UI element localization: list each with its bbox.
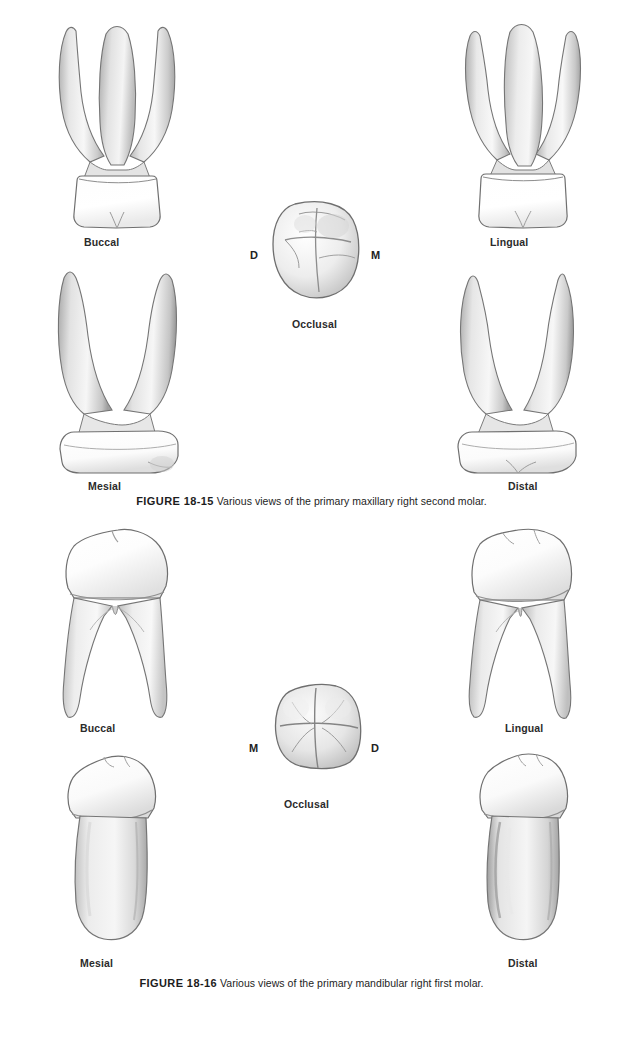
- label-distal-maxillary: Distal: [508, 480, 538, 492]
- maxillary-molar-buccal-illustration: [46, 18, 188, 230]
- maxillary-molar-distal-illustration: [448, 272, 588, 475]
- occlusal-marker-right-mandibular: D: [371, 742, 379, 754]
- figure-18-15-caption: FIGURE 18-15 Various views of the primar…: [0, 495, 623, 507]
- maxillary-molar-lingual-illustration: [452, 18, 594, 230]
- tooth-view-occlusal-mandibular: [268, 680, 368, 772]
- label-occlusal-mandibular: Occlusal: [284, 798, 329, 810]
- label-lingual-mandibular: Lingual: [505, 722, 543, 734]
- tooth-view-distal-mandibular: [466, 750, 594, 945]
- figure-18-15-number: FIGURE 18-15: [136, 495, 214, 507]
- label-lingual-maxillary: Lingual: [490, 236, 528, 248]
- tooth-view-occlusal-maxillary: [265, 196, 371, 304]
- tooth-view-distal-maxillary: [448, 272, 588, 475]
- figure-18-15-caption-text: Various views of the primary maxillary r…: [217, 495, 487, 507]
- tooth-view-mesial-mandibular: [56, 750, 184, 945]
- maxillary-molar-mesial-illustration: [52, 270, 190, 475]
- tooth-view-buccal-mandibular: [56, 520, 184, 720]
- occlusal-marker-left-mandibular: M: [249, 742, 258, 754]
- figure-18-16-caption: FIGURE 18-16 Various views of the primar…: [0, 977, 623, 989]
- mandibular-molar-buccal-illustration: [56, 520, 184, 720]
- tooth-view-mesial-maxillary: [52, 270, 190, 475]
- mandibular-molar-lingual-illustration: [460, 520, 588, 720]
- occlusal-marker-left-maxillary: D: [250, 249, 258, 261]
- mandibular-molar-distal-illustration: [466, 750, 594, 945]
- tooth-view-lingual-maxillary: [452, 18, 594, 230]
- label-buccal-mandibular: Buccal: [80, 722, 115, 734]
- tooth-view-buccal-maxillary: [46, 18, 188, 230]
- maxillary-molar-occlusal-illustration: [265, 196, 371, 304]
- label-mesial-mandibular: Mesial: [80, 957, 113, 969]
- figure-18-16-number: FIGURE 18-16: [139, 977, 217, 989]
- mandibular-molar-mesial-illustration: [56, 750, 184, 945]
- mandibular-molar-occlusal-illustration: [268, 680, 368, 772]
- figure-18-16-caption-text: Various views of the primary mandibular …: [220, 977, 484, 989]
- textbook-page: Buccal: [0, 0, 623, 1040]
- tooth-view-lingual-mandibular: [460, 520, 588, 720]
- label-mesial-maxillary: Mesial: [88, 480, 121, 492]
- label-buccal-maxillary: Buccal: [84, 236, 119, 248]
- occlusal-marker-right-maxillary: M: [371, 249, 380, 261]
- figure-18-15: Buccal: [0, 0, 623, 500]
- label-occlusal-maxillary: Occlusal: [292, 318, 337, 330]
- label-distal-mandibular: Distal: [508, 957, 538, 969]
- figure-18-16: Buccal: [0, 510, 623, 1010]
